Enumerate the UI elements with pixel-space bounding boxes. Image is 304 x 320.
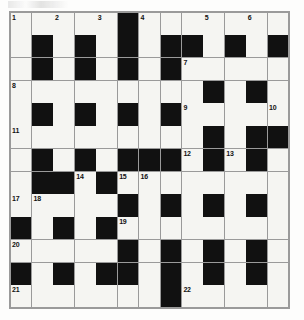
grid-cell-open[interactable] — [225, 126, 246, 148]
grid-cell-open[interactable] — [182, 240, 203, 262]
grid-cell-open[interactable] — [96, 285, 117, 307]
grid-cell-open[interactable] — [268, 81, 289, 103]
grid-cell-open[interactable] — [225, 13, 246, 35]
grid-cell-open[interactable] — [161, 13, 182, 35]
grid-cell-open[interactable] — [75, 13, 96, 35]
grid-cell-open[interactable] — [53, 126, 74, 148]
grid-cell-open[interactable] — [225, 263, 246, 285]
grid-cell-open[interactable] — [246, 217, 267, 239]
grid-cell-open[interactable] — [139, 263, 160, 285]
grid-cell-open[interactable] — [268, 58, 289, 80]
grid-cell-open[interactable] — [75, 240, 96, 262]
grid-cell-open[interactable]: 5 — [203, 13, 224, 35]
grid-cell-open[interactable] — [268, 217, 289, 239]
grid-cell-open[interactable] — [268, 240, 289, 262]
grid-cell-open[interactable] — [139, 285, 160, 307]
grid-cell-open[interactable] — [75, 81, 96, 103]
grid-cell-open[interactable] — [139, 103, 160, 125]
grid-cell-open[interactable]: 3 — [96, 13, 117, 35]
grid-cell-open[interactable] — [96, 81, 117, 103]
grid-cell-open[interactable] — [182, 172, 203, 194]
grid-cell-open[interactable] — [246, 103, 267, 125]
grid-cell-open[interactable] — [32, 240, 53, 262]
grid-cell-open[interactable] — [182, 13, 203, 35]
grid-cell-open[interactable]: 15 — [118, 172, 139, 194]
grid-cell-open[interactable] — [182, 217, 203, 239]
grid-cell-open[interactable] — [53, 149, 74, 171]
grid-cell-open[interactable] — [53, 194, 74, 216]
grid-cell-open[interactable] — [11, 172, 32, 194]
grid-cell-open[interactable] — [225, 194, 246, 216]
grid-cell-open[interactable] — [203, 285, 224, 307]
grid-cell-open[interactable] — [225, 217, 246, 239]
grid-cell-open[interactable] — [11, 149, 32, 171]
grid-cell-open[interactable] — [96, 126, 117, 148]
grid-cell-open[interactable] — [182, 194, 203, 216]
grid-cell-open[interactable] — [268, 13, 289, 35]
grid-cell-open[interactable] — [268, 172, 289, 194]
grid-cell-open[interactable] — [225, 240, 246, 262]
grid-cell-open[interactable]: 22 — [182, 285, 203, 307]
grid-cell-open[interactable] — [268, 285, 289, 307]
grid-cell-open[interactable]: 1 — [11, 13, 32, 35]
grid-cell-open[interactable] — [32, 126, 53, 148]
grid-cell-open[interactable] — [53, 58, 74, 80]
grid-cell-open[interactable] — [96, 103, 117, 125]
grid-cell-open[interactable] — [203, 58, 224, 80]
grid-cell-open[interactable] — [246, 285, 267, 307]
grid-cell-open[interactable] — [53, 103, 74, 125]
grid-cell-open[interactable] — [268, 149, 289, 171]
grid-cell-open[interactable] — [182, 263, 203, 285]
grid-cell-open[interactable]: 12 — [182, 149, 203, 171]
grid-cell-open[interactable] — [225, 285, 246, 307]
grid-cell-open[interactable] — [96, 149, 117, 171]
grid-cell-open[interactable] — [203, 217, 224, 239]
grid-cell-open[interactable] — [11, 58, 32, 80]
grid-cell-open[interactable] — [268, 194, 289, 216]
grid-cell-open[interactable]: 20 — [11, 240, 32, 262]
grid-cell-open[interactable] — [53, 81, 74, 103]
grid-cell-open[interactable] — [139, 194, 160, 216]
grid-cell-open[interactable]: 19 — [118, 217, 139, 239]
grid-cell-open[interactable]: 10 — [268, 103, 289, 125]
grid-cell-open[interactable] — [32, 217, 53, 239]
grid-cell-open[interactable] — [53, 240, 74, 262]
grid-cell-open[interactable] — [75, 126, 96, 148]
grid-cell-open[interactable] — [246, 172, 267, 194]
grid-cell-open[interactable] — [75, 263, 96, 285]
grid-cell-open[interactable] — [118, 126, 139, 148]
grid-cell-open[interactable]: 21 — [11, 285, 32, 307]
grid-cell-open[interactable] — [32, 13, 53, 35]
grid-cell-open[interactable]: 17 — [11, 194, 32, 216]
grid-cell-open[interactable] — [11, 103, 32, 125]
grid-cell-open[interactable] — [161, 217, 182, 239]
grid-cell-open[interactable]: 14 — [75, 172, 96, 194]
grid-cell-open[interactable] — [225, 58, 246, 80]
grid-cell-open[interactable]: 6 — [246, 13, 267, 35]
grid-cell-open[interactable] — [246, 35, 267, 57]
grid-cell-open[interactable]: 8 — [11, 81, 32, 103]
grid-cell-open[interactable] — [96, 58, 117, 80]
grid-cell-open[interactable] — [96, 240, 117, 262]
grid-cell-open[interactable] — [75, 194, 96, 216]
grid-cell-open[interactable]: 2 — [53, 13, 74, 35]
grid-cell-open[interactable]: 11 — [11, 126, 32, 148]
grid-cell-open[interactable]: 13 — [225, 149, 246, 171]
grid-cell-open[interactable] — [246, 58, 267, 80]
grid-cell-open[interactable] — [118, 285, 139, 307]
grid-cell-open[interactable]: 16 — [139, 172, 160, 194]
grid-cell-open[interactable] — [11, 35, 32, 57]
grid-cell-open[interactable] — [225, 81, 246, 103]
grid-cell-open[interactable]: 7 — [182, 58, 203, 80]
grid-cell-open[interactable] — [268, 263, 289, 285]
grid-cell-open[interactable] — [139, 217, 160, 239]
grid-cell-open[interactable] — [203, 103, 224, 125]
grid-cell-open[interactable] — [161, 126, 182, 148]
grid-cell-open[interactable] — [96, 194, 117, 216]
grid-cell-open[interactable] — [139, 35, 160, 57]
grid-cell-open[interactable] — [53, 285, 74, 307]
grid-cell-open[interactable] — [139, 81, 160, 103]
grid-cell-open[interactable] — [96, 35, 117, 57]
grid-cell-open[interactable] — [139, 58, 160, 80]
grid-cell-open[interactable] — [32, 81, 53, 103]
